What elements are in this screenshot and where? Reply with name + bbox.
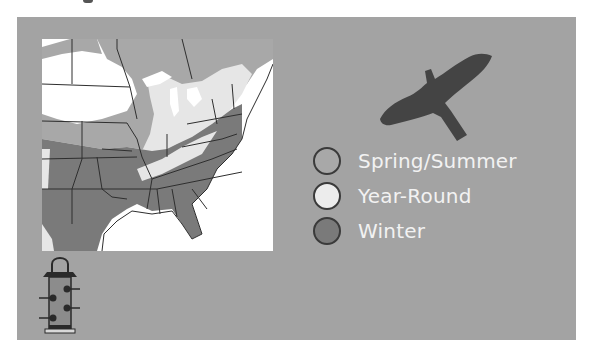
hawk-silhouette-icon [377, 47, 497, 151]
cropped-title-fragment [83, 0, 93, 3]
legend-item-spring-summer: Spring/Summer [313, 143, 517, 178]
season-legend: Spring/Summer Year-Round Winter [313, 143, 517, 248]
year-round-swatch-icon [313, 182, 341, 210]
legend-item-year-round: Year-Round [313, 178, 517, 213]
spring-summer-swatch-icon [313, 147, 341, 175]
tube-bird-feeder-icon [35, 250, 85, 342]
winter-swatch-icon [313, 217, 341, 245]
legend-label: Winter [358, 219, 425, 243]
legend-item-winter: Winter [313, 213, 517, 248]
us-range-map-graphic [42, 39, 273, 251]
range-card: Spring/Summer Year-Round Winter [17, 17, 576, 340]
legend-label: Spring/Summer [358, 149, 517, 173]
legend-label: Year-Round [358, 184, 472, 208]
range-map [42, 39, 273, 251]
